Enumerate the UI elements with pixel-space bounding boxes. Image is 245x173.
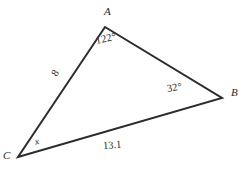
vertex-label-a: A — [104, 6, 111, 17]
vertex-label-b: B — [231, 87, 238, 98]
side-label-cb: 13.1 — [103, 140, 122, 152]
vertex-label-c: C — [3, 150, 10, 161]
triangle-outline — [18, 27, 222, 157]
